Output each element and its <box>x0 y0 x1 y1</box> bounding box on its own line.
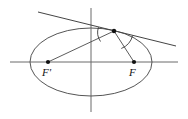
angle-arc-left <box>98 27 101 41</box>
ray-from-left-focus <box>48 31 114 62</box>
focus-right-label: F <box>128 66 136 78</box>
diagram-canvas: F' F <box>0 0 188 119</box>
focus-right-dot <box>132 60 136 64</box>
ray-from-right-focus <box>114 31 134 62</box>
tangent-point-dot <box>112 29 116 33</box>
focus-left-label: F' <box>41 66 52 78</box>
tangent-line <box>38 12 176 46</box>
angle-arc-right <box>121 36 132 49</box>
ellipse-diagram-figure: F' F <box>0 0 188 119</box>
focus-left-dot <box>46 60 50 64</box>
